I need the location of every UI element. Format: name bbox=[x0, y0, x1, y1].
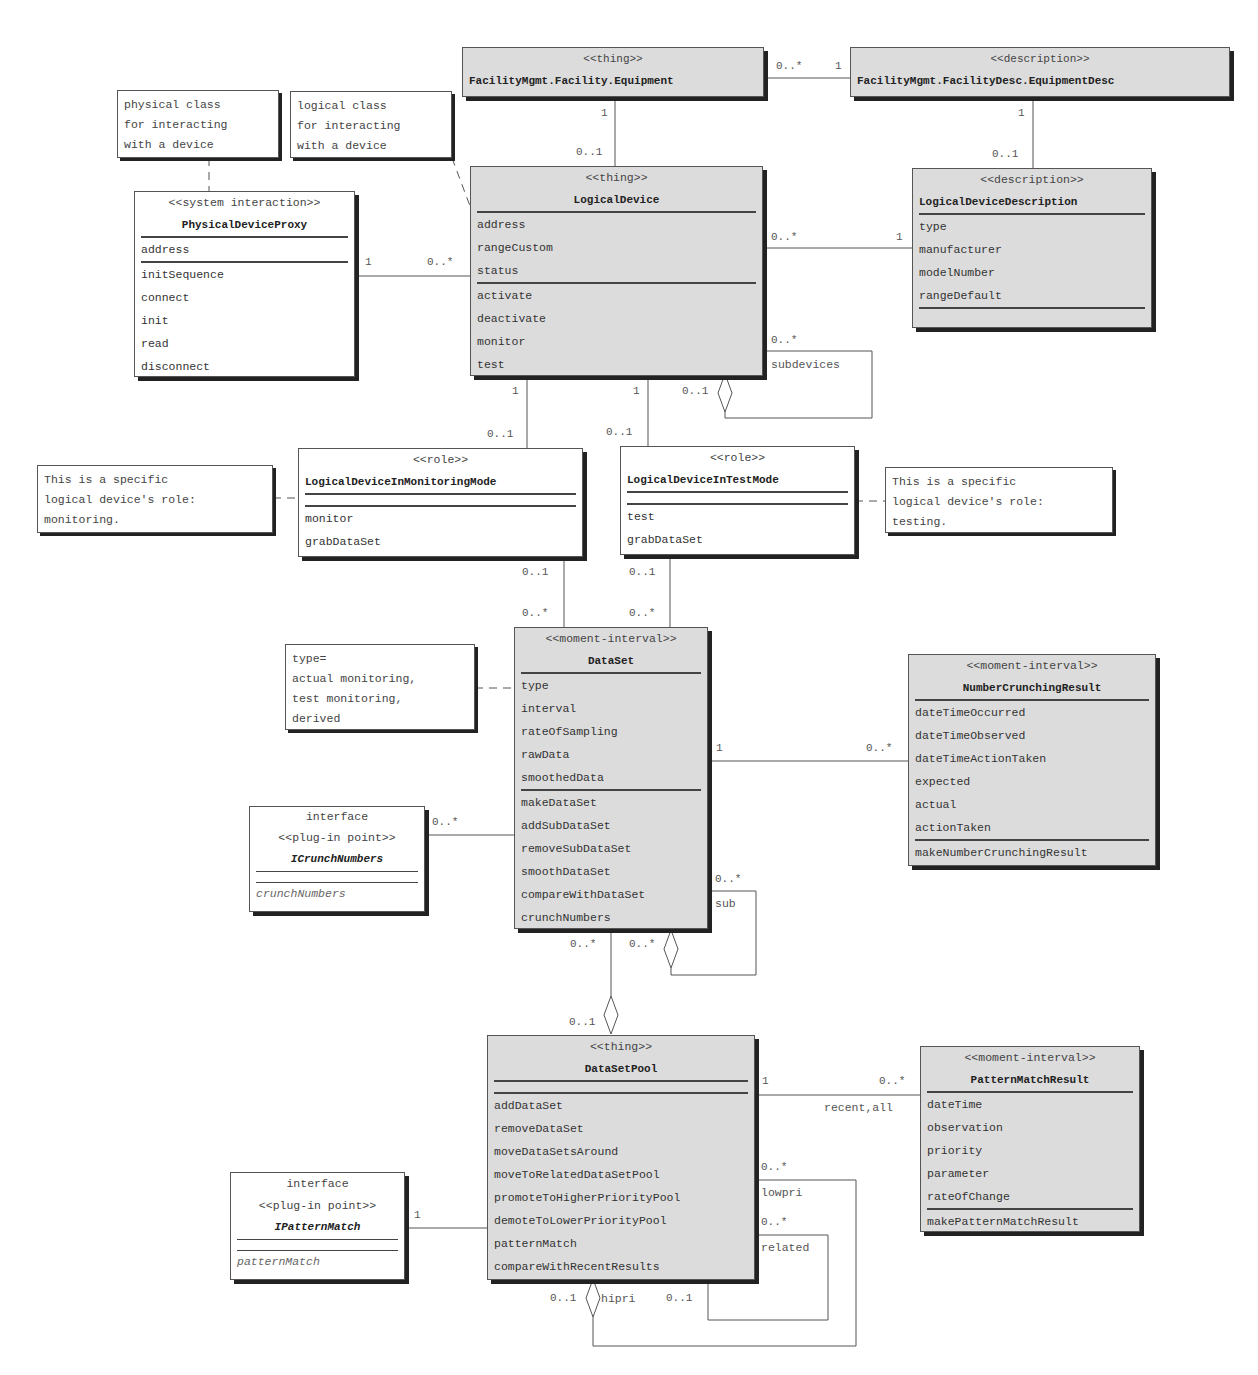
class-name: DataSetPool bbox=[488, 1058, 754, 1080]
attribute: status bbox=[471, 259, 762, 282]
operation: addSubDataSet bbox=[515, 814, 707, 837]
note-line: test monitoring, bbox=[292, 689, 468, 709]
stereotype: <<moment-interval>> bbox=[515, 628, 707, 650]
multiplicity: 0..* bbox=[761, 1216, 787, 1228]
multiplicity: 0..1 bbox=[992, 148, 1018, 160]
multiplicity: 1 bbox=[762, 1075, 769, 1087]
operation: grabDataSet bbox=[299, 530, 582, 553]
note-line: actual monitoring, bbox=[292, 669, 468, 689]
operation: deactivate bbox=[471, 307, 762, 330]
class-dataset-pool[interactable]: <<thing>> DataSetPool addDataSet removeD… bbox=[487, 1035, 755, 1280]
divider bbox=[494, 1080, 748, 1082]
multiplicity: 1 bbox=[896, 231, 903, 243]
multiplicity: 0..1 bbox=[666, 1292, 692, 1304]
attribute: smoothedData bbox=[515, 766, 707, 789]
multiplicity: 0..1 bbox=[522, 566, 548, 578]
class-monitoring-mode[interactable]: <<role>> LogicalDeviceInMonitoringMode m… bbox=[298, 448, 583, 557]
operation: crunchNumbers bbox=[515, 906, 707, 929]
attribute: type bbox=[515, 674, 707, 697]
multiplicity: 0..* bbox=[522, 607, 548, 619]
class-name: IPatternMatch bbox=[231, 1217, 404, 1237]
stereotype: <<moment-interval>> bbox=[921, 1047, 1139, 1069]
operation: addDataSet bbox=[488, 1094, 754, 1117]
multiplicity: 0..1 bbox=[576, 146, 602, 158]
operation: activate bbox=[471, 284, 762, 307]
class-name: LogicalDeviceDescription bbox=[913, 191, 1151, 213]
interface-label: interface bbox=[250, 807, 424, 827]
operation: removeSubDataSet bbox=[515, 837, 707, 860]
class-pattern-match-result[interactable]: <<moment-interval>> PatternMatchResult d… bbox=[920, 1046, 1140, 1232]
class-name: LogicalDevice bbox=[471, 189, 762, 211]
multiplicity: 0..* bbox=[879, 1075, 905, 1087]
operation: makeDataSet bbox=[515, 791, 707, 814]
note-line: logical class bbox=[297, 96, 445, 116]
operation: patternMatch bbox=[488, 1232, 754, 1255]
multiplicity: 1 bbox=[633, 385, 640, 397]
interface-label: interface bbox=[231, 1173, 404, 1195]
attribute: rangeCustom bbox=[471, 236, 762, 259]
note-line: logical device's role: bbox=[44, 490, 266, 510]
multiplicity: 1 bbox=[365, 256, 372, 268]
operation: compareWithRecentResults bbox=[488, 1255, 754, 1278]
multiplicity: 0..* bbox=[432, 816, 458, 828]
class-name: NumberCrunchingResult bbox=[909, 677, 1155, 699]
class-test-mode[interactable]: <<role>> LogicalDeviceInTestMode test gr… bbox=[620, 446, 855, 555]
operation: removeDataSet bbox=[488, 1117, 754, 1140]
role-label: sub bbox=[715, 897, 736, 910]
stereotype: <<moment-interval>> bbox=[909, 655, 1155, 677]
stereotype: <<thing>> bbox=[471, 167, 762, 189]
class-logical-device-description[interactable]: <<description>> LogicalDeviceDescription… bbox=[912, 168, 1152, 328]
operation: makePatternMatchResult bbox=[921, 1210, 1139, 1233]
class-equipment-desc[interactable]: <<description>> FacilityMgmt.FacilityDes… bbox=[850, 47, 1230, 97]
class-number-crunching-result[interactable]: <<moment-interval>> NumberCrunchingResul… bbox=[908, 654, 1156, 866]
multiplicity: 1 bbox=[512, 385, 519, 397]
multiplicity: 0..* bbox=[771, 334, 797, 346]
note-line: This is a specific bbox=[892, 472, 1106, 492]
multiplicity: 1 bbox=[1018, 107, 1025, 119]
multiplicity: 0..1 bbox=[629, 566, 655, 578]
interface-icrunch-numbers[interactable]: interface <<plug-in point>> ICrunchNumbe… bbox=[249, 806, 425, 912]
operation: read bbox=[135, 332, 354, 355]
attribute: modelNumber bbox=[913, 261, 1151, 284]
stereotype: <<thing>> bbox=[488, 1036, 754, 1058]
operation: test bbox=[621, 505, 854, 528]
operation: smoothDataSet bbox=[515, 860, 707, 883]
multiplicity: 0..* bbox=[427, 256, 453, 268]
note-testing-role: This is a specific logical device's role… bbox=[885, 467, 1113, 533]
stereotype: <<plug-in point>> bbox=[231, 1195, 404, 1217]
note-line: This is a specific bbox=[44, 470, 266, 490]
role-label: hipri bbox=[601, 1292, 636, 1305]
stereotype: <<description>> bbox=[851, 48, 1229, 70]
operation: makeNumberCrunchingResult bbox=[909, 841, 1155, 864]
interface-ipattern-match[interactable]: interface <<plug-in point>> IPatternMatc… bbox=[230, 1172, 405, 1280]
class-logical-device[interactable]: <<thing>> LogicalDevice address rangeCus… bbox=[470, 166, 763, 376]
stereotype: <<system interaction>> bbox=[135, 192, 354, 214]
operation: grabDataSet bbox=[621, 528, 854, 551]
note-line: type= bbox=[292, 649, 468, 669]
multiplicity: 0..* bbox=[715, 873, 741, 885]
attribute: parameter bbox=[921, 1162, 1139, 1185]
multiplicity: 0..* bbox=[771, 231, 797, 243]
operation: init bbox=[135, 309, 354, 332]
attribute: manufacturer bbox=[913, 238, 1151, 261]
divider bbox=[627, 491, 848, 493]
divider bbox=[256, 871, 418, 872]
class-dataset[interactable]: <<moment-interval>> DataSet type interva… bbox=[514, 627, 708, 929]
attribute: interval bbox=[515, 697, 707, 720]
role-label: related bbox=[761, 1241, 809, 1254]
stereotype: <<thing>> bbox=[463, 48, 763, 70]
class-name: PhysicalDeviceProxy bbox=[135, 214, 354, 236]
stereotype: <<role>> bbox=[299, 449, 582, 471]
multiplicity: 0..1 bbox=[487, 428, 513, 440]
class-equipment[interactable]: <<thing>> FacilityMgmt.Facility.Equipmen… bbox=[462, 47, 764, 97]
multiplicity: 0..1 bbox=[550, 1292, 576, 1304]
note-line: testing. bbox=[892, 512, 1106, 532]
attribute: dateTimeOccurred bbox=[909, 701, 1155, 724]
multiplicity: 1 bbox=[601, 107, 608, 119]
stereotype: <<plug-in point>> bbox=[250, 827, 424, 849]
class-physical-device-proxy[interactable]: <<system interaction>> PhysicalDevicePro… bbox=[134, 191, 355, 377]
multiplicity: 0..1 bbox=[569, 1016, 595, 1028]
operation: monitor bbox=[299, 507, 582, 530]
operation: moveDataSetsAround bbox=[488, 1140, 754, 1163]
multiplicity: 0..* bbox=[866, 742, 892, 754]
